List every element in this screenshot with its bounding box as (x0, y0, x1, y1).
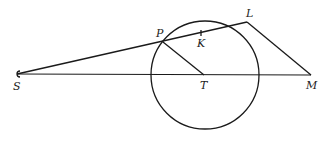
geometry-diagram: S P K L T M (0, 0, 328, 141)
label-m: M (305, 79, 318, 92)
label-p: P (155, 27, 164, 40)
label-t: T (200, 79, 209, 92)
label-l: L (245, 7, 253, 20)
segment-s-l (17, 22, 247, 74)
label-s: S (13, 80, 21, 93)
segment-s-m (17, 74, 311, 75)
label-k: K (196, 37, 206, 50)
segment-l-m (247, 22, 311, 75)
